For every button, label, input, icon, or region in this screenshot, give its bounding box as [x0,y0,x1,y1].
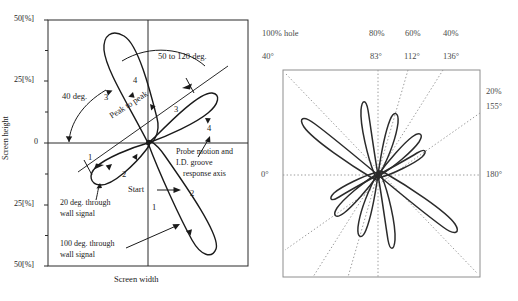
left-plot-origin [146,141,150,145]
right-label-60-percent: 60% [405,29,421,38]
annotation-start: Start [128,185,144,194]
annotation-probe-axis-line1: Probe motion and [176,148,233,156]
left-lobe-number-4b: 4 [207,124,211,133]
left-lobe-number-3b: 3 [174,105,178,114]
right-angle-180: 180° [486,170,502,179]
start-arrow-head [174,187,182,193]
right-angle-83: 83° [370,52,382,61]
left-plot-y-major-ticks [44,20,48,266]
lobe-100-percent-upper [301,119,379,180]
arrow-lobe-20-left [106,164,112,170]
left-y-tick-25-top: 25[%] [14,76,34,84]
left-plot-y-axis-title: Screen height [2,160,46,168]
left-y-tick-50-top: 50[%] [14,15,34,23]
right-angle-136: 136° [443,52,459,61]
arrow-axis-right [182,83,192,89]
left-lobe-number-1a: 1 [88,153,92,162]
annotation-50-to-120-deg: 50 to 120 deg. [158,52,207,61]
right-label-20-percent: 20% [486,87,502,96]
right-angle-40: 40° [262,52,274,61]
right-label-80-percent: 80% [369,29,385,38]
left-y-tick-50-bottom: 50[%] [14,261,34,269]
annotation-probe-axis-line2: I.D. groove [176,159,213,167]
left-lobe-number-2a: 2 [122,170,126,179]
annotation-wall-20-line1: 20 deg. through [60,199,110,207]
left-lobe-number-1b: 1 [152,203,156,212]
arrow-lobe-20-right [132,154,137,160]
left-y-tick-0: 0 [34,138,38,146]
lobe-40-deg [104,33,158,143]
right-angle-155: 155° [486,102,502,111]
left-plot-group [44,20,248,266]
left-y-tick-25-bottom: 25[%] [14,200,34,208]
annotation-40-deg: 40 deg. [62,92,87,101]
annotation-probe-axis-line3: response axis [183,170,226,178]
right-label-100-percent-hole: 100% hole [262,29,299,38]
arrow-axis-left [94,164,104,170]
right-angle-0: 0° [261,170,269,179]
annotation-wall-100-line1: 100 deg. through [60,240,114,248]
lobe-80-percent-lower [378,171,395,248]
lobe-80-percent-upper [361,102,378,179]
arrow-40-deg-bottom [66,136,72,142]
leader-probe-axis-head [205,136,211,143]
right-label-40-percent: 40% [443,29,459,38]
lobe-60-percent-upper [378,114,399,178]
radial-axis-155 [285,113,480,250]
annotation-wall-20-line2: wall signal [60,210,95,218]
right-plot-group [283,70,480,277]
figure-root: Screen height Screen width 50[%] 25[%] 0… [0,0,518,301]
lobe-20-deg-through-wall [91,143,150,185]
annotation-wall-100-line2: wall signal [60,251,95,259]
left-lobe-number-4a: 4 [133,76,137,85]
left-lobe-number-3a: 3 [104,93,108,102]
lobe-60-percent-lower [358,173,379,237]
leader-100-deg [126,226,176,248]
left-plot-x-axis-title: Screen width [114,275,159,284]
left-lobe-number-2b: 2 [190,189,194,198]
right-angle-112: 112° [404,52,420,61]
